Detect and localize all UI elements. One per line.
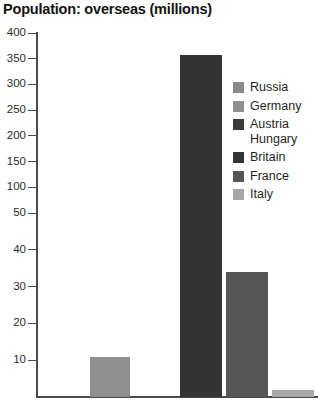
legend-item-italy[interactable]: Italy (233, 187, 319, 202)
y-axis-tick-label: 30 (0, 281, 26, 293)
legend-item-label: Germany (250, 99, 301, 114)
legend-swatch-icon (233, 171, 244, 182)
legend-item-label: France (250, 169, 289, 184)
legend-item-label: Russia (250, 80, 288, 95)
y-axis-tick (28, 33, 36, 34)
y-axis-tick (28, 249, 36, 250)
y-axis-tick-label: 250 (0, 104, 26, 116)
y-axis-tick-label: 300 (0, 78, 26, 90)
bar-chart: Population: overseas (millions) 10203040… (0, 0, 320, 405)
y-axis-tick (28, 187, 36, 188)
y-axis-tick (28, 360, 36, 361)
y-axis-tick (28, 323, 36, 324)
y-axis-tick-label: 40 (0, 244, 26, 256)
bar-britain[interactable] (180, 55, 222, 397)
y-axis-tick (28, 58, 36, 59)
y-axis-tick-label: 100 (0, 181, 26, 193)
bar-italy[interactable] (272, 390, 314, 397)
bar-france[interactable] (226, 272, 268, 397)
legend-swatch-icon (233, 82, 244, 93)
y-axis-tick-label: 400 (0, 27, 26, 39)
legend-swatch-icon (233, 152, 244, 163)
legend-item-france[interactable]: France (233, 169, 319, 184)
legend-item-label: Italy (250, 187, 273, 202)
legend-swatch-icon (233, 189, 244, 200)
legend-swatch-icon (233, 119, 244, 130)
bar-germany[interactable] (90, 357, 130, 397)
legend-item-germany[interactable]: Germany (233, 99, 319, 114)
y-axis-tick-label: 200 (0, 130, 26, 142)
legend-item-austria-hungary[interactable]: Austria Hungary (233, 117, 319, 146)
legend-item-russia[interactable]: Russia (233, 80, 319, 95)
chart-legend: RussiaGermanyAustria HungaryBritainFranc… (233, 80, 319, 206)
legend-item-britain[interactable]: Britain (233, 150, 319, 165)
y-axis-tick-label: 10 (0, 354, 26, 366)
y-axis-tick (28, 213, 36, 214)
legend-item-label: Britain (250, 150, 285, 165)
chart-title: Population: overseas (millions) (3, 1, 212, 17)
y-axis-tick-label: 20 (0, 317, 26, 329)
y-axis-tick-label: 150 (0, 156, 26, 168)
y-axis-tick (28, 161, 36, 162)
legend-swatch-icon (233, 101, 244, 112)
y-axis-tick (28, 286, 36, 287)
y-axis-tick-label: 350 (0, 53, 26, 65)
y-axis-tick-label: 50 (0, 207, 26, 219)
y-axis-tick (28, 135, 36, 136)
y-axis-tick (28, 84, 36, 85)
legend-item-label: Austria Hungary (250, 117, 297, 146)
y-axis-tick (28, 110, 36, 111)
